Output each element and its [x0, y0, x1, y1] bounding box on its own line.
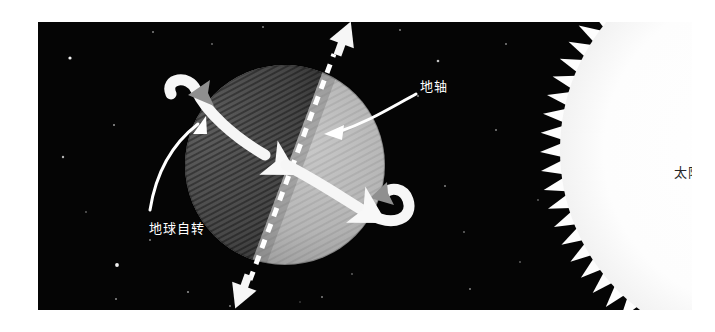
label-earth-axis: 地轴: [420, 76, 448, 95]
earth-rotation-diagram: 地轴 地球自转 太阳: [0, 0, 715, 332]
axis-arrow-south: [224, 271, 261, 310]
label-earth-rotation: 地球自转: [149, 218, 205, 237]
scene-illustration: [38, 22, 692, 310]
space-background-panel: 地轴 地球自转 太阳: [38, 22, 692, 310]
axis-arrow-north: [325, 22, 362, 59]
sun-disc: [560, 22, 692, 310]
label-sun: 太阳: [674, 162, 692, 181]
sun-graphic: [540, 22, 692, 310]
